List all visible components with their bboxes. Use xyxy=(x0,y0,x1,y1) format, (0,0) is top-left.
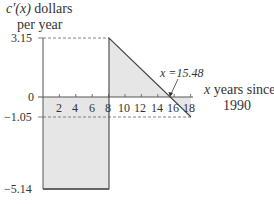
xtick-label-6: 6 xyxy=(89,101,95,115)
x-axis-title-line2: 1990 xyxy=(223,99,251,113)
y-axis-title-line2: per year xyxy=(17,18,62,32)
ytick-label-neg-5-14: −5.14 xyxy=(4,182,32,196)
y-axis-title-func: c′(x) xyxy=(6,1,31,16)
xtick-label-8: 8 xyxy=(105,101,111,115)
xtick-label-12: 12 xyxy=(134,101,146,115)
x-axis-title: x years since xyxy=(204,83,274,97)
xtick-label-18: 18 xyxy=(183,101,195,115)
xtick-label-16: 16 xyxy=(167,101,179,115)
x-axis-title-rest: years since xyxy=(210,82,274,97)
annotation-label: x =15.48 xyxy=(160,66,203,80)
y-axis-title: c′(x) dollars xyxy=(6,2,72,16)
xtick-label-4: 4 xyxy=(72,101,78,115)
xtick-label-2: 2 xyxy=(56,101,62,115)
ytick-label-3-15: 3.15 xyxy=(11,31,32,45)
xtick-label-10: 10 xyxy=(118,101,130,115)
ytick-label-0: 0 xyxy=(28,90,34,104)
xtick-label-14: 14 xyxy=(151,101,163,115)
annotation-arrow xyxy=(171,79,178,94)
y-axis-title-rest: dollars xyxy=(31,1,73,16)
ytick-label-neg-1-05: −1.05 xyxy=(4,110,32,124)
